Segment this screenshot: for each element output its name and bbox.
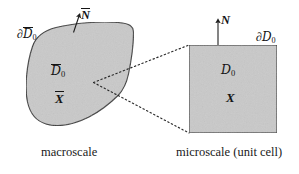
- microscale-square-outline: [189, 45, 277, 133]
- macroscale-caption: macroscale: [41, 146, 97, 159]
- homogenization-figure: ∂D0 N D0 X N ∂D0 D0 X macroscale microsc…: [0, 0, 299, 174]
- connector-line-bottom: [94, 83, 190, 134]
- microscale-caption: microscale (unit cell): [176, 146, 282, 159]
- microscale-unit-cell: [189, 45, 277, 133]
